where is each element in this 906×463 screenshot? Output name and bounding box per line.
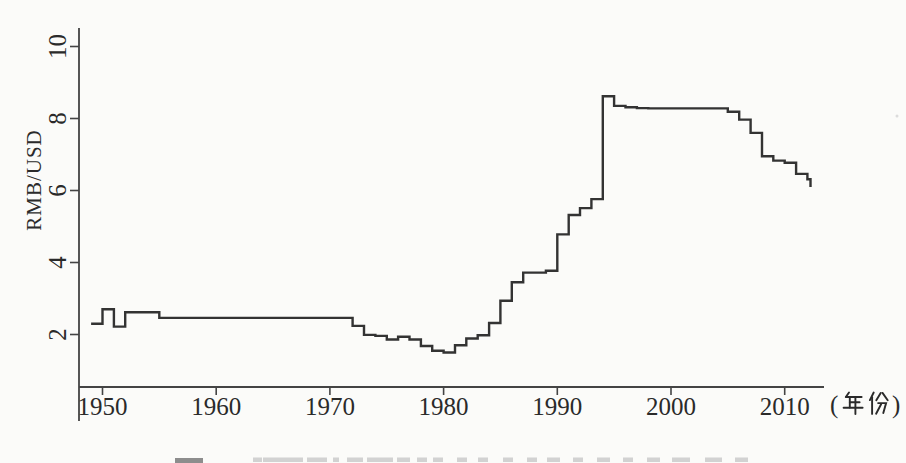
caption-fragment — [457, 458, 467, 463]
x-unit-close-paren: ) — [892, 391, 900, 419]
y-tick-label: 6 — [44, 184, 71, 197]
x-tick-label: 1960 — [191, 393, 241, 420]
caption-fragment — [705, 458, 722, 463]
caption-fragment — [417, 458, 427, 463]
y-tick-label: 4 — [44, 256, 71, 269]
caption-fragment — [672, 458, 690, 463]
y-tick-label: 8 — [44, 112, 71, 125]
caption-fragment — [503, 458, 513, 463]
caption-fragment — [623, 458, 633, 463]
y-axis-title: RMB/USD — [22, 129, 47, 231]
y-tick-label: 2 — [44, 328, 71, 341]
caption-fragment — [263, 458, 303, 463]
hanzi-fen — [870, 393, 888, 414]
caption-fragment — [397, 458, 410, 463]
x-tick-label: 2010 — [760, 393, 810, 420]
caption-fragment — [347, 458, 363, 463]
hanzi-nian — [844, 393, 863, 415]
caption-fragment — [547, 458, 560, 463]
caption-fragment — [735, 458, 748, 463]
hanzi-fen-stroke — [876, 404, 881, 413]
x-tick-label: 2000 — [646, 393, 696, 420]
caption-fragment — [253, 458, 262, 463]
x-tick-label: 1980 — [419, 393, 469, 420]
caption-fragment — [527, 458, 537, 463]
x-tick-label: 1990 — [532, 393, 582, 420]
exchange-rate-line — [91, 96, 810, 352]
caption-fragment — [175, 458, 203, 463]
caption-fragment — [433, 458, 443, 463]
caption-fragment — [597, 458, 610, 463]
hanzi-fen-stroke — [876, 393, 880, 400]
caption-fragment — [573, 458, 583, 463]
caption-fragment — [333, 458, 339, 463]
caption-fragment — [647, 458, 660, 463]
axis-lines — [79, 28, 824, 421]
x-tick-label: 1950 — [78, 393, 128, 420]
caption-fragment — [307, 458, 327, 463]
caption-fragment — [478, 458, 488, 463]
x-tick-label: 1970 — [305, 393, 355, 420]
x-unit-open-paren: ( — [830, 391, 838, 419]
scanned-page: 2468101950196019701980199020002010() RMB… — [0, 0, 906, 463]
y-tick-label: 10 — [44, 34, 71, 59]
hanzi-fen-stroke — [883, 393, 888, 400]
caption-fragment — [367, 458, 393, 463]
exchange-rate-step-chart: 2468101950196019701980199020002010() — [0, 0, 906, 463]
scan-speck — [896, 115, 899, 118]
